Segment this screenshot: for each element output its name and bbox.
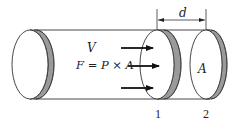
- left-end-cap: [12, 30, 54, 99]
- pipe-diagram: V F = P × A A d 1 2: [0, 0, 235, 125]
- area-label: A: [198, 63, 207, 75]
- distance-label: d: [179, 7, 187, 19]
- force-equation-label: F = P × A: [76, 60, 134, 72]
- section-2-label: 2: [203, 108, 209, 120]
- section-1-label: 1: [155, 108, 161, 120]
- velocity-label: V: [87, 42, 96, 54]
- section-2-disc: [190, 30, 227, 99]
